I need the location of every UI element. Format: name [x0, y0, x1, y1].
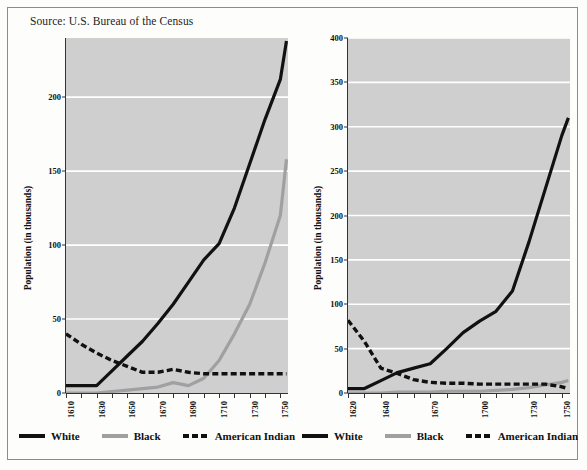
legend-swatch-icon — [385, 434, 411, 438]
x-tick-label: 1730 — [250, 401, 260, 418]
series-line-american-indian — [66, 334, 286, 374]
x-tick-mark — [143, 393, 144, 398]
x-tick-label: 1750 — [562, 401, 572, 418]
legend-item-white[interactable]: White — [302, 430, 363, 442]
x-tick-mark — [562, 393, 563, 398]
x-tick-mark — [381, 393, 382, 398]
x-tick-mark — [234, 393, 235, 398]
x-tick-mark — [397, 393, 398, 398]
x-tick-mark — [173, 393, 174, 398]
x-tick-mark — [414, 393, 415, 398]
x-tick-mark — [204, 393, 205, 398]
x-tick-mark — [250, 393, 251, 398]
x-tick-label: 1670 — [430, 401, 440, 418]
x-tick-label: 1620 — [348, 401, 358, 418]
x-tick-mark — [188, 393, 189, 398]
x-tick-mark — [447, 393, 448, 398]
chart-svg-right — [348, 38, 570, 393]
legend-label: White — [334, 430, 363, 442]
y-tick-mark — [344, 259, 348, 260]
y-tick-label: 50 — [335, 344, 344, 354]
x-axis-line-left — [66, 393, 288, 394]
legend-label: American Indian — [215, 430, 295, 442]
x-tick-label: 1650 — [127, 401, 137, 418]
y-tick-label: 400 — [330, 33, 343, 43]
y-tick-mark — [62, 319, 66, 320]
legend-item-black[interactable]: Black — [102, 430, 161, 442]
x-tick-mark — [66, 393, 67, 398]
plot-area-right: 0501001502002503003504001620164016701700… — [348, 38, 570, 393]
series-line-black — [66, 159, 286, 393]
chart-panel-new-england: Population (in thousands) 05010015020025… — [300, 28, 580, 448]
y-tick-mark — [62, 97, 66, 98]
x-tick-mark — [496, 393, 497, 398]
x-tick-label: 1700 — [480, 401, 490, 418]
x-tick-mark — [364, 393, 365, 398]
x-tick-mark — [112, 393, 113, 398]
chart-svg-left — [66, 38, 288, 393]
y-axis-line-left — [65, 38, 66, 393]
figure-page: Source: U.S. Bureau of the Census Popula… — [0, 0, 587, 470]
y-tick-mark — [344, 348, 348, 349]
legend-swatch-icon — [302, 434, 328, 438]
legend-item-american-indian[interactable]: American Indian — [183, 430, 295, 442]
y-axis-label-left: Population (in thousands) — [23, 186, 33, 291]
y-tick-label: 100 — [330, 299, 343, 309]
y-tick-mark — [344, 126, 348, 127]
y-tick-label: 200 — [48, 92, 61, 102]
x-tick-mark — [265, 393, 266, 398]
legend-item-black[interactable]: Black — [385, 430, 444, 442]
legend-label: American Indian — [498, 430, 578, 442]
y-tick-mark — [62, 245, 66, 246]
legend-item-white[interactable]: White — [19, 430, 80, 442]
source-note: Source: U.S. Bureau of the Census — [30, 15, 193, 27]
legend-label: White — [51, 430, 80, 442]
y-tick-mark — [344, 82, 348, 83]
x-tick-mark — [545, 393, 546, 398]
x-tick-mark — [219, 393, 220, 398]
x-tick-label: 1710 — [219, 401, 229, 418]
x-tick-mark — [280, 393, 281, 398]
x-tick-mark — [512, 393, 513, 398]
y-tick-mark — [62, 171, 66, 172]
x-tick-label: 1630 — [97, 401, 107, 418]
y-axis-label-right: Population (in thousands) — [313, 186, 323, 291]
series-line-white — [66, 41, 286, 386]
plot-area-left: 0501001502001610163016501670169017101730… — [66, 38, 288, 393]
y-tick-label: 150 — [48, 166, 61, 176]
plot-canvas-left — [66, 38, 288, 393]
legend-label: Black — [134, 430, 161, 442]
legend-swatch-icon — [102, 434, 128, 438]
y-tick-mark — [344, 304, 348, 305]
x-tick-mark — [430, 393, 431, 398]
plot-canvas-right — [348, 38, 570, 393]
y-tick-label: 350 — [330, 77, 343, 87]
x-tick-label: 1730 — [529, 401, 539, 418]
y-tick-label: 0 — [339, 388, 343, 398]
x-tick-mark — [97, 393, 98, 398]
x-tick-mark — [81, 393, 82, 398]
legend-right: WhiteBlackAmerican Indian — [300, 430, 580, 442]
x-tick-mark — [480, 393, 481, 398]
x-tick-mark — [463, 393, 464, 398]
x-tick-label: 1640 — [381, 401, 391, 418]
y-tick-mark — [344, 38, 348, 39]
x-tick-label: 1670 — [158, 401, 168, 418]
x-tick-mark — [158, 393, 159, 398]
x-tick-mark — [127, 393, 128, 398]
legend-label: Black — [417, 430, 444, 442]
y-tick-label: 100 — [48, 240, 61, 250]
x-tick-label: 1610 — [66, 401, 76, 418]
y-tick-label: 200 — [330, 211, 343, 221]
legend-left: WhiteBlackAmerican Indian — [14, 430, 300, 442]
legend-swatch-icon — [466, 434, 492, 438]
y-tick-label: 150 — [330, 255, 343, 265]
x-tick-mark — [348, 393, 349, 398]
legend-swatch-icon — [183, 434, 209, 438]
y-tick-mark — [344, 171, 348, 172]
series-line-american-indian — [348, 320, 568, 388]
legend-item-american-indian[interactable]: American Indian — [466, 430, 578, 442]
y-tick-label: 50 — [53, 314, 62, 324]
x-tick-label: 1750 — [280, 401, 290, 418]
chart-panel-virginia-maryland: Population (in thousands) 05010015020016… — [14, 28, 300, 448]
